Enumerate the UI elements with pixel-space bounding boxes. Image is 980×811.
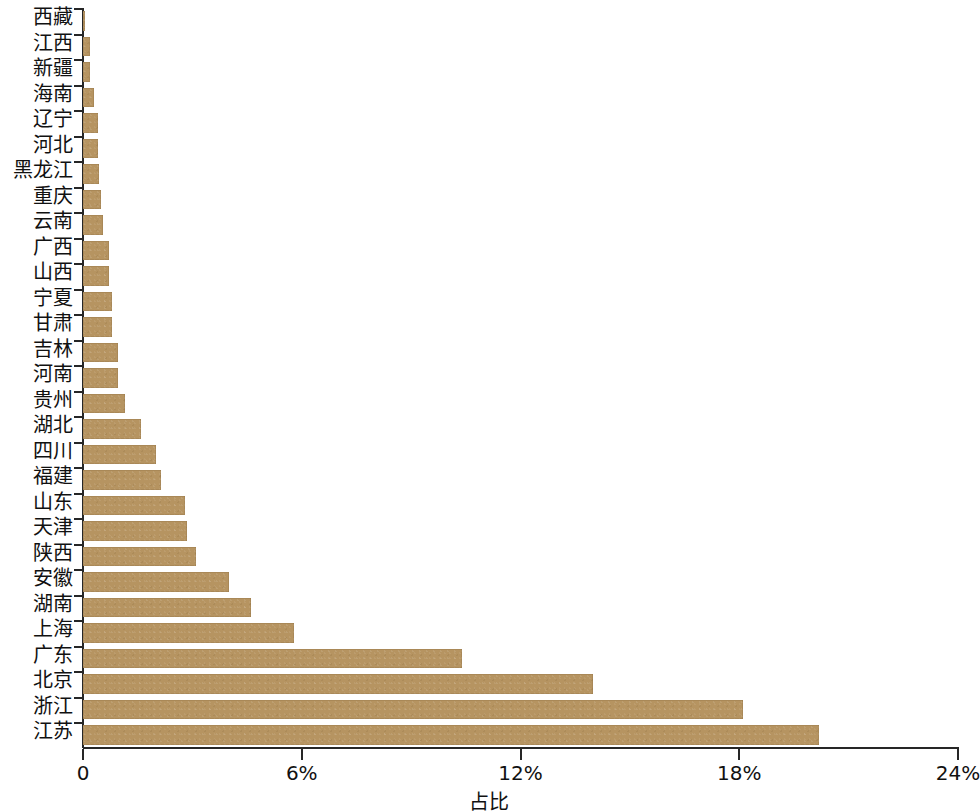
y-axis-label-西藏: 西藏	[33, 5, 73, 31]
y-axis-tick	[74, 697, 83, 699]
y-axis-tick	[74, 212, 83, 214]
bar-山西	[83, 266, 109, 286]
bar-row	[83, 212, 958, 238]
y-axis-tick	[74, 646, 83, 648]
bar-北京	[83, 674, 593, 694]
bar-row	[83, 365, 958, 391]
y-axis-tick	[74, 289, 83, 291]
y-axis-label-浙江: 浙江	[33, 694, 73, 720]
bar-湖北	[83, 419, 141, 439]
bar-海南	[83, 88, 94, 108]
bar-云南	[83, 215, 103, 235]
bar-row	[83, 697, 958, 723]
y-axis-tick	[74, 238, 83, 240]
y-axis-label-陕西: 陕西	[33, 541, 73, 567]
bar-江苏	[83, 725, 819, 745]
bar-row	[83, 289, 958, 315]
y-axis-tick	[74, 671, 83, 673]
y-axis-tick	[74, 314, 83, 316]
bar-陕西	[83, 547, 196, 567]
bar-rows	[83, 8, 958, 748]
y-axis-label-新疆: 新疆	[33, 56, 73, 82]
x-axis-tick	[82, 749, 84, 760]
y-axis-label-福建: 福建	[33, 464, 73, 490]
bar-row	[83, 620, 958, 646]
bar-山东	[83, 496, 185, 516]
bar-广西	[83, 241, 109, 261]
bar-row	[83, 467, 958, 493]
x-axis-tick-label: 6%	[286, 761, 318, 785]
bar-黑龙江	[83, 164, 99, 184]
bar-row	[83, 493, 958, 519]
y-axis-tick	[74, 544, 83, 546]
bar-河南	[83, 368, 118, 388]
x-axis-tick-label: 12%	[498, 761, 542, 785]
y-axis-tick	[74, 569, 83, 571]
y-axis-label-河南: 河南	[33, 362, 73, 388]
y-axis-label-湖北: 湖北	[33, 413, 73, 439]
y-axis-tick	[74, 59, 83, 61]
y-axis-label-重庆: 重庆	[33, 184, 73, 210]
bar-四川	[83, 445, 156, 465]
bar-row	[83, 110, 958, 136]
bar-row	[83, 722, 958, 748]
y-axis-label-江苏: 江苏	[33, 719, 73, 745]
bar-贵州	[83, 394, 125, 414]
bar-福建	[83, 470, 161, 490]
bar-新疆	[83, 62, 90, 82]
y-axis-label-甘肃: 甘肃	[33, 311, 73, 337]
y-axis-label-吉林: 吉林	[33, 337, 73, 363]
y-axis-tick	[74, 365, 83, 367]
x-axis-tick	[738, 749, 740, 760]
y-axis-label-河北: 河北	[33, 133, 73, 159]
y-axis-label-宁夏: 宁夏	[33, 286, 73, 312]
y-axis-label-天津: 天津	[33, 515, 73, 541]
y-axis-tick	[74, 722, 83, 724]
y-axis-label-黑龙江: 黑龙江	[13, 158, 73, 184]
plot-area	[83, 8, 958, 748]
y-axis-label-贵州: 贵州	[33, 388, 73, 414]
bar-广东	[83, 649, 462, 669]
bar-row	[83, 314, 958, 340]
bar-row	[83, 518, 958, 544]
bar-row	[83, 263, 958, 289]
bar-row	[83, 59, 958, 85]
x-axis-title: 占比	[0, 786, 978, 811]
bar-row	[83, 544, 958, 570]
x-axis-tick-label: 0	[77, 761, 90, 785]
y-axis-label-广东: 广东	[33, 643, 73, 669]
y-axis-tick	[74, 493, 83, 495]
bar-吉林	[83, 343, 118, 363]
bar-row	[83, 85, 958, 111]
x-axis-tick	[520, 749, 522, 760]
y-axis-label-云南: 云南	[33, 209, 73, 235]
bar-row	[83, 8, 958, 34]
bar-row	[83, 391, 958, 417]
bar-row	[83, 595, 958, 621]
bar-row	[83, 671, 958, 697]
x-axis-tick-label: 18%	[717, 761, 761, 785]
bar-row	[83, 238, 958, 264]
y-axis-tick	[74, 187, 83, 189]
bar-江西	[83, 37, 90, 57]
bar-安徽	[83, 572, 229, 592]
y-axis-tick	[74, 467, 83, 469]
bar-row	[83, 136, 958, 162]
bar-row	[83, 646, 958, 672]
y-axis-label-海南: 海南	[33, 82, 73, 108]
y-axis-label-广西: 广西	[33, 235, 73, 261]
bar-row	[83, 569, 958, 595]
x-axis-tick	[957, 749, 959, 760]
bar-辽宁	[83, 113, 98, 133]
bar-row	[83, 416, 958, 442]
y-axis-tick	[74, 595, 83, 597]
y-axis-label-江西: 江西	[33, 31, 73, 57]
y-axis-tick	[74, 416, 83, 418]
bar-天津	[83, 521, 187, 541]
y-axis-label-上海: 上海	[33, 617, 73, 643]
bar-西藏	[83, 11, 85, 31]
bar-row	[83, 161, 958, 187]
bar-宁夏	[83, 292, 112, 312]
bar-重庆	[83, 190, 101, 210]
